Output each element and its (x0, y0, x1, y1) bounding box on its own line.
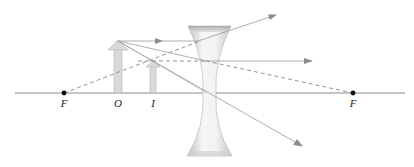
ray-parallel (64, 15, 277, 94)
virtual-ray-right-focus (206, 61, 353, 93)
focal-point-right (351, 91, 356, 96)
image-arrow (146, 60, 160, 93)
concave-lens (187, 26, 232, 156)
arrowhead-icon (155, 38, 163, 44)
ray-diagram (0, 0, 414, 167)
arrowhead-icon (268, 15, 277, 21)
label-focal-right: F (350, 97, 357, 109)
focal-point-left (62, 91, 67, 96)
label-image: I (151, 97, 155, 109)
label-object: O (114, 97, 122, 109)
arrowhead-icon (304, 58, 313, 64)
arrowhead-icon (293, 139, 303, 147)
label-focal-left: F (61, 97, 68, 109)
object-arrow (108, 40, 128, 93)
